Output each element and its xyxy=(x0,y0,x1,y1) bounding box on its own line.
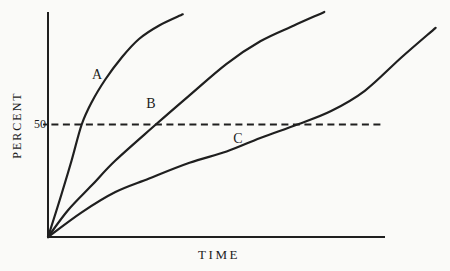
curve-a-path xyxy=(48,14,183,237)
y-axis-title: PERCENT xyxy=(11,91,23,158)
y-tick-label-50: 50 xyxy=(34,118,46,130)
plot-canvas xyxy=(0,0,450,271)
line-chart-figure: PERCENT TIME 50 A B C xyxy=(0,0,450,271)
curve-label-c: C xyxy=(233,132,242,146)
x-axis-title: TIME xyxy=(198,248,240,261)
curve-label-b: B xyxy=(146,97,155,111)
curve-label-a: A xyxy=(92,68,102,82)
